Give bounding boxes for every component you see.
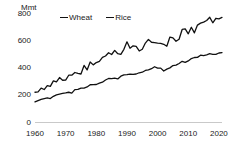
plot-area (0, 0, 235, 148)
series-line-rice (35, 53, 222, 102)
series-line-wheat (35, 17, 222, 92)
production-line-chart: Mmt 8006004002000 1960197019801990200020… (0, 0, 235, 148)
